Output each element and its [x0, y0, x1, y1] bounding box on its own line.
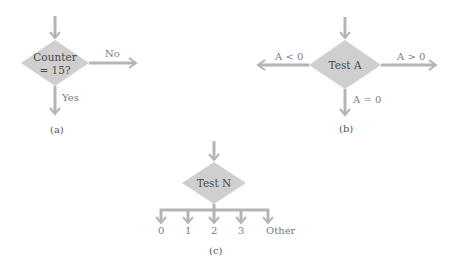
- caption-c: (c): [209, 245, 222, 256]
- flowchart-canvas: [0, 0, 455, 267]
- decision-a-line1: Counter: [25, 51, 85, 63]
- caption-a: (a): [50, 124, 64, 135]
- branch-0-label: 0: [158, 225, 164, 236]
- branch-3-label: 3: [238, 225, 244, 236]
- decision-b-label: Test A: [315, 59, 375, 71]
- branch-a-equal-label: A = 0: [353, 94, 381, 105]
- branch-other-label: Other: [266, 225, 295, 236]
- decision-c-label: Test N: [184, 177, 244, 189]
- decision-diamond-a: [21, 40, 89, 86]
- branch-yes-label: Yes: [62, 92, 79, 103]
- branch-no-label: No: [105, 48, 120, 59]
- branch-a-greater-label: A > 0: [397, 51, 425, 62]
- decision-a-line2: = 15?: [25, 64, 85, 76]
- branch-a-less-label: A < 0: [275, 51, 303, 62]
- branch-2-label: 2: [211, 225, 217, 236]
- branch-1-label: 1: [185, 225, 191, 236]
- caption-b: (b): [339, 123, 353, 134]
